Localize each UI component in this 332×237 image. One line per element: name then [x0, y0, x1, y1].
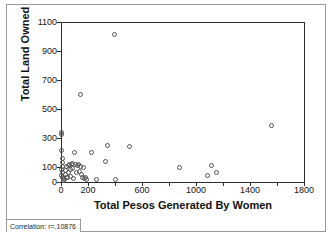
x-axis-tick-label: 0	[58, 186, 63, 195]
data-point	[89, 150, 94, 155]
plot-right-border	[304, 22, 305, 183]
data-point	[81, 165, 86, 170]
x-axis-line	[61, 182, 305, 183]
y-axis-tick-label: 100	[42, 163, 57, 172]
data-point	[78, 92, 83, 97]
y-axis-tick	[57, 138, 61, 139]
y-axis-tick-label: 900	[42, 47, 57, 56]
plot-top-border	[61, 22, 305, 23]
y-axis-tick-label: 1100	[38, 18, 57, 27]
data-point	[205, 173, 210, 178]
data-point	[105, 143, 110, 148]
y-axis-tick	[57, 51, 61, 52]
y-axis-tick-label: 300	[42, 134, 57, 143]
x-axis-tick-label: 1800	[294, 186, 314, 195]
data-point	[209, 163, 214, 168]
data-point	[177, 165, 182, 170]
y-axis-tick	[57, 22, 61, 23]
y-axis-tick-label: 500	[42, 105, 57, 114]
data-point	[71, 176, 76, 181]
x-axis-tick-label: 1000	[186, 186, 206, 195]
data-point	[59, 132, 64, 137]
y-axis-tick-label: 700	[42, 76, 57, 85]
x-axis-tick-labels: 0200600100014001800	[61, 186, 305, 198]
plot-area	[61, 22, 305, 183]
data-point	[269, 123, 274, 128]
x-axis-title: Total Pesos Generated By Women	[61, 199, 305, 211]
y-axis-tick	[57, 80, 61, 81]
data-point	[214, 170, 219, 175]
y-axis-tick	[57, 109, 61, 110]
scatter-plot-figure: Total Land Owned 01003005007009001100 02…	[0, 0, 332, 237]
y-axis-tick-labels: 01003005007009001100	[26, 22, 57, 183]
correlation-annotation: Correlation: r=.10876	[7, 219, 81, 232]
data-point	[103, 159, 108, 164]
data-point	[127, 144, 132, 149]
data-point	[112, 32, 117, 37]
data-point	[59, 148, 64, 153]
x-axis-tick-label: 200	[80, 186, 95, 195]
x-axis-tick-label: 1400	[240, 186, 260, 195]
data-point	[72, 150, 77, 155]
x-axis-tick-label: 600	[134, 186, 149, 195]
